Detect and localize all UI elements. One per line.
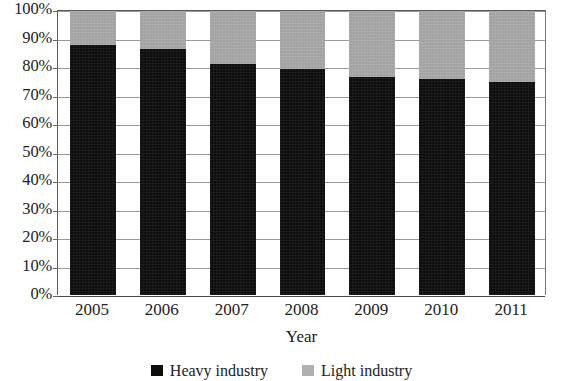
bar-segment-light-industry[interactable] — [489, 11, 535, 82]
y-axis-tick-label: 0% — [0, 286, 52, 302]
legend-item-label: Heavy industry — [170, 361, 268, 380]
y-axis-tick-label: 70% — [0, 87, 52, 103]
bar-group[interactable] — [210, 11, 256, 295]
y-axis-tick-label: 80% — [0, 58, 52, 74]
x-axis-tick-label: 2008 — [267, 299, 337, 321]
bar-segment-light-industry[interactable] — [349, 11, 395, 77]
x-axis-tick-label: 2005 — [57, 299, 127, 321]
scan-grain-overlay — [210, 63, 256, 295]
x-axis-tick-label: 2011 — [476, 299, 546, 321]
scan-grain-overlay — [489, 81, 535, 295]
y-axis-tick-label: 30% — [0, 201, 52, 217]
scan-grain-overlay — [70, 11, 116, 45]
y-axis-tick-label: 60% — [0, 115, 52, 131]
bar-segment-light-industry[interactable] — [280, 11, 326, 69]
legend-swatch-icon — [302, 365, 314, 376]
scan-grain-overlay — [210, 11, 256, 64]
y-axis-tick-label: 10% — [0, 258, 52, 274]
scan-grain-overlay — [419, 11, 465, 79]
x-axis-tick-label: 2009 — [336, 299, 406, 321]
bars-layer — [58, 11, 545, 295]
scan-grain-overlay — [280, 68, 326, 295]
bar-group[interactable] — [70, 11, 116, 295]
legend-swatch-icon — [151, 365, 163, 376]
chart-figure: 0%10%20%30%40%50%60%70%80%90%100% 200520… — [0, 0, 563, 381]
y-axis-tick-label: 100% — [0, 1, 52, 17]
scan-grain-overlay — [140, 11, 186, 49]
y-axis-tick-label: 20% — [0, 229, 52, 245]
bar-segment-light-industry[interactable] — [210, 11, 256, 64]
bar-group[interactable] — [489, 11, 535, 295]
y-axis-tick-label: 90% — [0, 30, 52, 46]
scan-grain-overlay — [280, 11, 326, 69]
x-axis-tick-labels: 2005200620072008200920102011 — [57, 299, 546, 325]
bar-group[interactable] — [140, 11, 186, 295]
bar-segment-heavy-industry[interactable] — [140, 48, 186, 295]
bar-segment-heavy-industry[interactable] — [489, 81, 535, 295]
bar-segment-light-industry[interactable] — [70, 11, 116, 45]
scan-grain-overlay — [349, 11, 395, 77]
bar-segment-heavy-industry[interactable] — [349, 76, 395, 295]
x-axis-tick-label: 2007 — [197, 299, 267, 321]
x-axis-tick-label: 2010 — [406, 299, 476, 321]
legend-item[interactable]: Heavy industry — [151, 361, 268, 380]
scan-grain-overlay — [419, 78, 465, 295]
legend-item[interactable]: Light industry — [302, 361, 412, 380]
scan-grain-overlay — [140, 48, 186, 295]
y-axis-tick-label: 50% — [0, 144, 52, 160]
bar-segment-heavy-industry[interactable] — [419, 78, 465, 295]
bar-segment-heavy-industry[interactable] — [280, 68, 326, 295]
axis-baseline — [58, 296, 545, 297]
y-axis-tick-labels: 0%10%20%30%40%50%60%70%80%90%100% — [0, 0, 52, 305]
bar-segment-heavy-industry[interactable] — [70, 44, 116, 295]
bar-segment-heavy-industry[interactable] — [210, 63, 256, 295]
legend-item-label: Light industry — [321, 361, 412, 380]
scan-grain-overlay — [349, 76, 395, 295]
bar-group[interactable] — [280, 11, 326, 295]
chart-legend: Heavy industryLight industry — [0, 361, 563, 381]
bar-segment-light-industry[interactable] — [140, 11, 186, 49]
y-axis-tick-label: 40% — [0, 172, 52, 188]
bar-group[interactable] — [349, 11, 395, 295]
scan-grain-overlay — [70, 44, 116, 295]
bar-group[interactable] — [419, 11, 465, 295]
x-axis-tick-label: 2006 — [127, 299, 197, 321]
plot-area — [57, 10, 546, 295]
x-axis-title: Year — [57, 327, 546, 347]
bar-segment-light-industry[interactable] — [419, 11, 465, 79]
scan-grain-overlay — [489, 11, 535, 82]
y-axis-tick-mark — [53, 296, 58, 297]
